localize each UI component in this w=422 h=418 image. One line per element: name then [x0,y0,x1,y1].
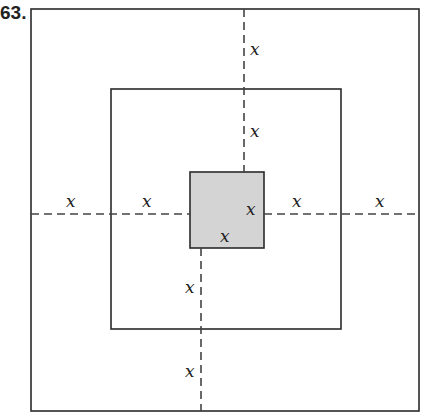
label-bottom-middle: x [185,277,195,297]
label-bottom-outer: x [185,361,195,381]
label-top-middle: x [250,121,260,141]
label-inner-right: x [246,199,256,219]
label-left-middle: x [142,191,152,211]
label-top-outer: x [250,39,260,59]
label-left-outer: x [66,191,76,211]
label-right-outer: x [375,191,385,211]
nested-squares-diagram: x x x x x x x x x x [0,0,422,418]
label-inner-bottom: x [220,226,230,246]
label-right-middle: x [292,191,302,211]
